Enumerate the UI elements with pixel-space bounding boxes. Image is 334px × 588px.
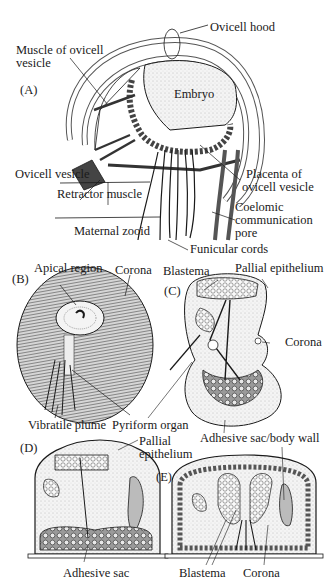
- label-ovicell-vesicle: Ovicell vesicle: [15, 168, 90, 181]
- label-apical-region: Apical region: [34, 262, 102, 275]
- panel-label-d: (D): [20, 442, 37, 455]
- label-pyriform-organ: Pyriform organ: [112, 419, 189, 432]
- label-blastema-c: Blastema: [163, 265, 210, 278]
- panel-label-a: (A): [20, 84, 37, 97]
- label-muscle-ovicell-vesicle-2: vesicle: [16, 57, 51, 70]
- label-retractor-muscle: Retractor muscle: [57, 188, 142, 201]
- panel-label-c: (C): [164, 285, 181, 298]
- label-corona-c: Corona: [285, 336, 322, 349]
- label-pallial-epithelium-c: Pallial epithelium: [235, 262, 324, 275]
- label-placenta-2: ovicell vesicle: [242, 181, 314, 194]
- label-corona-e: Corona: [243, 567, 280, 580]
- panel-b-illustration: [17, 267, 153, 423]
- label-vibratile-plume: Vibratile plume: [28, 419, 106, 432]
- label-pallial-d-2: epithelium: [139, 448, 192, 461]
- panel-label-e: (E): [156, 471, 172, 484]
- panel-a-illustration: [55, 25, 262, 250]
- label-ovicell-hood: Ovicell hood: [210, 21, 275, 34]
- label-embryo: Embryo: [174, 88, 214, 101]
- panel-e-illustration: [165, 447, 323, 565]
- label-corona-b: Corona: [115, 264, 152, 277]
- label-adhesive-sac: Adhesive sac: [63, 567, 129, 580]
- label-blastema-e: Blastema: [179, 567, 226, 580]
- label-maternal-zooid: Maternal zooid: [74, 225, 150, 238]
- panel-label-b: (B): [12, 273, 29, 286]
- label-funicular-cords: Funicular cords: [190, 243, 268, 256]
- label-adhesive-sac-body-wall: Adhesive sac/body wall: [200, 432, 319, 445]
- label-coelomic-3: pore: [235, 227, 257, 240]
